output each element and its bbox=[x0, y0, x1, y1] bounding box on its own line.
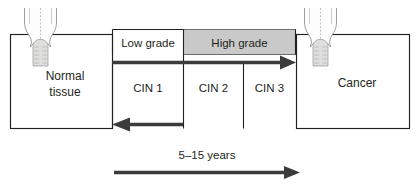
stage-label-cin1: CIN 1 bbox=[133, 82, 162, 94]
normal-tissue-label-line1: Normal bbox=[46, 69, 85, 83]
timeline-label: 5–15 years bbox=[179, 149, 236, 161]
high-grade-label: High grade bbox=[211, 37, 267, 49]
timeline-arrow bbox=[114, 166, 300, 179]
timeline-arrow-head bbox=[284, 166, 300, 179]
low-grade-label: Low grade bbox=[121, 37, 175, 49]
cervix-canal bbox=[33, 40, 48, 67]
regression-arrow bbox=[112, 118, 183, 132]
diagram-canvas: Low grade High grade CIN 1 CIN 2 CIN 3 N… bbox=[0, 0, 418, 185]
cin-progression-diagram: Low grade High grade CIN 1 CIN 2 CIN 3 N… bbox=[0, 0, 418, 185]
cancer-label: Cancer bbox=[338, 76, 377, 90]
progression-arrow bbox=[112, 56, 296, 70]
progression-arrow-head bbox=[280, 56, 296, 70]
regression-arrow-head bbox=[112, 118, 130, 132]
stage-label-cin3: CIN 3 bbox=[255, 82, 284, 94]
cervix-cancer-canal bbox=[313, 40, 328, 67]
stage-label-cin2: CIN 2 bbox=[199, 82, 228, 94]
normal-tissue-label-line2: tissue bbox=[49, 85, 81, 99]
